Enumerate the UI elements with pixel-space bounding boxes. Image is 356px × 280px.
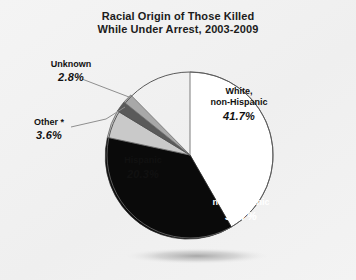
callout-label-other-text: Other * [34,117,64,127]
slice-value-other: 3.6% [15,130,83,141]
callout-label-unknown-text: Unknown [51,59,92,69]
callout-label-other: Other * 3.6% [15,117,83,141]
pie-chart-figure: Racial Origin of Those Killed While Unde… [0,0,356,280]
slice-value-unknown: 2.8% [35,72,107,83]
pie-drop-shadow [125,248,269,264]
pie-slices [105,72,273,239]
callout-label-unknown: Unknown 2.8% [35,59,107,83]
